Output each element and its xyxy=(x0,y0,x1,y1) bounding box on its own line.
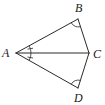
label-c: C xyxy=(93,47,102,61)
label-b: B xyxy=(75,1,83,15)
segment-ab xyxy=(16,19,78,53)
angle-mark-a-upper xyxy=(29,46,31,53)
geometry-diagram: A B C D xyxy=(0,0,105,105)
label-a: A xyxy=(1,46,10,60)
segment-bc xyxy=(78,19,89,53)
segment-ad xyxy=(16,53,78,88)
segment-cd xyxy=(78,53,89,88)
angle-mark-a-lower xyxy=(29,53,31,60)
tick-mark-a-upper xyxy=(28,48,34,49)
label-d: D xyxy=(73,91,83,105)
tick-mark-a-lower xyxy=(28,57,34,58)
